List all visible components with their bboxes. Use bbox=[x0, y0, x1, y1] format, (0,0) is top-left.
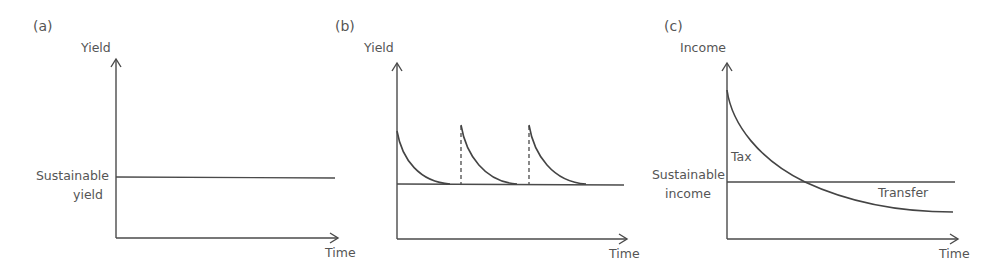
panel-b-x-axis-label: Time bbox=[608, 246, 640, 261]
sustainable-label-line1: Sustainable bbox=[36, 168, 109, 183]
sustainable-yield-line bbox=[116, 177, 335, 178]
figure: (a) Yield Time Sustainable yield (b) Yie… bbox=[0, 0, 998, 277]
panel-a-label: (a) bbox=[33, 18, 53, 34]
sustainable-label-line1: Sustainable bbox=[652, 167, 725, 182]
panel-a-y-axis-label: Yield bbox=[80, 40, 111, 55]
yield-pulse-2 bbox=[461, 125, 517, 184]
transfer-region-label: Transfer bbox=[877, 185, 929, 200]
sustainable-label-line2: income bbox=[665, 186, 711, 201]
tax-region-label: Tax bbox=[730, 149, 752, 164]
sustainable-label-line2: yield bbox=[73, 187, 103, 202]
panel-c-x-axis-label: Time bbox=[938, 246, 970, 261]
yield-pulse-1 bbox=[397, 131, 450, 184]
panel-c: (c) Income Time Sustainable income Tax T… bbox=[652, 18, 970, 261]
panel-b-y-axis-label: Yield bbox=[363, 40, 394, 55]
sustainable-yield-line bbox=[397, 184, 624, 185]
panel-a: (a) Yield Time Sustainable yield bbox=[33, 18, 356, 260]
panel-c-label: (c) bbox=[664, 18, 683, 34]
panel-b: (b) Yield Time bbox=[335, 18, 640, 261]
panel-b-label: (b) bbox=[335, 18, 355, 34]
yield-pulse-3 bbox=[529, 125, 586, 184]
panel-a-x-axis-label: Time bbox=[324, 245, 356, 260]
panel-c-y-axis-label: Income bbox=[680, 40, 726, 55]
